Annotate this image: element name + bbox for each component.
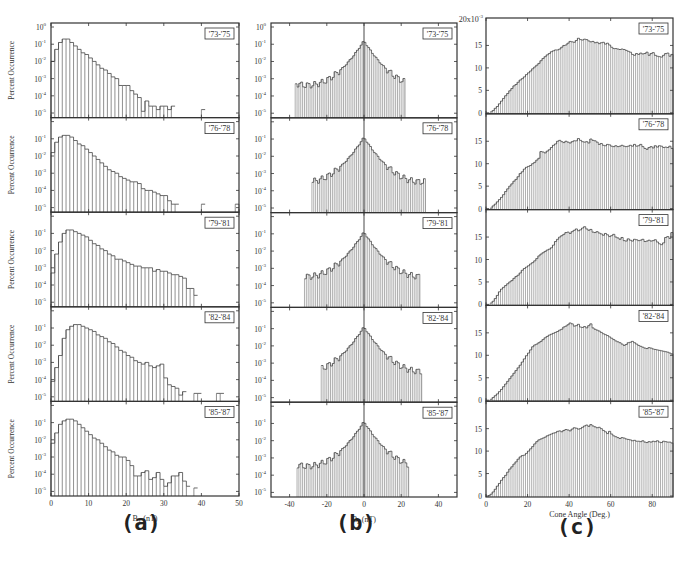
x-tick-label: 40 <box>198 499 206 508</box>
x-tick-label: 20 <box>524 500 532 509</box>
y-tick-label: 10-1 <box>254 418 266 428</box>
subplot-b-1: 10010-110-210-310-410-5'73-'75 <box>254 22 457 118</box>
y-tick-label: 10-1 <box>254 134 266 144</box>
y-tick-label: 10-2 <box>34 435 46 445</box>
y-tick-label: 10-1 <box>254 324 266 334</box>
figure-canvas: 10010-110-210-310-410-5'73-'75Percent Oc… <box>0 0 689 569</box>
histogram-bars <box>297 423 409 497</box>
y-tick-label: 10 <box>475 256 483 265</box>
y-tick-label: 10-4 <box>254 91 266 101</box>
y-tick-label: 10-1 <box>34 134 46 144</box>
subplot-b-5: 10-110-210-310-410-5'85-'87 <box>254 402 457 497</box>
period-label: '85-'87 <box>209 408 231 417</box>
y-tick-label: 15 <box>475 233 483 242</box>
y-tick-label: 100 <box>256 22 267 32</box>
subplot-c-1: 05101520x10-3'73-'75 <box>459 14 673 118</box>
y-tick-label: 0 <box>478 300 482 309</box>
y-tick-label: 10-2 <box>254 246 266 256</box>
y-tick-label: 0 <box>478 492 482 501</box>
histogram-bars <box>490 38 673 114</box>
y-tick-label: 0 <box>478 396 482 405</box>
panel-b: 10010-110-210-310-410-5'73-'7510-110-210… <box>254 22 457 525</box>
y-tick-label: 10-5 <box>254 393 266 403</box>
x-tick-label: 40 <box>435 500 443 509</box>
histogram-bars <box>490 323 673 401</box>
period-label: '82-'84 <box>209 313 231 322</box>
y-tick-label: 10-4 <box>34 469 46 479</box>
y-tick-label: 10-3 <box>34 168 46 178</box>
histogram-bars <box>51 419 198 496</box>
y-tick-label: 10-3 <box>254 453 266 463</box>
period-label: '79-'81 <box>427 219 449 228</box>
x-tick-label: 20 <box>397 500 405 509</box>
y-tick-label: 10-5 <box>34 486 46 496</box>
y-tick-label: 10-5 <box>254 108 266 118</box>
y-axis-label: Percent Occurrence <box>7 419 16 479</box>
y-tick-label: 10-3 <box>34 452 46 462</box>
y-axis-label: Percent Occurrence <box>7 229 16 289</box>
period-label: '82-'84 <box>643 312 665 321</box>
y-axis-label: Percent Occurrence <box>7 324 16 384</box>
histogram-bars <box>304 233 419 307</box>
y-axis-label: Percent Occurrence <box>7 135 16 195</box>
y-tick-label: 10-3 <box>254 169 266 179</box>
x-tick-label: 0 <box>49 499 53 508</box>
y-tick-label: 10-4 <box>254 186 266 196</box>
histogram-bars <box>488 425 673 497</box>
y-tick-label: 15 <box>475 41 483 50</box>
y-tick-label: 10-4 <box>254 375 266 385</box>
panel-label-b: (b) <box>336 510 376 535</box>
y-tick-label: 10-1 <box>34 418 46 428</box>
period-label: '73-'75 <box>427 30 449 39</box>
histogram-bars <box>312 138 425 212</box>
subplot-a-2: 10-110-210-310-410-5'76-'78Percent Occur… <box>7 118 239 213</box>
y-tick-label: 10-3 <box>34 263 46 273</box>
period-label: '82-'84 <box>427 314 449 323</box>
y-tick-label: 10 <box>475 64 483 73</box>
y-tick-label: 10-2 <box>254 151 266 161</box>
y-tick-label: 10-1 <box>34 39 46 49</box>
y-tick-label: 10 <box>475 351 483 360</box>
histogram-bars <box>321 328 421 402</box>
y-tick-label: 10-5 <box>254 203 266 213</box>
figure: 10010-110-210-310-410-5'73-'75Percent Oc… <box>0 0 689 569</box>
period-label: '79-'81 <box>209 219 231 228</box>
y-tick-label: 10-2 <box>34 246 46 256</box>
x-tick-label: -20 <box>322 500 332 509</box>
x-tick-label: 0 <box>362 500 366 509</box>
y-tick-label: 10-1 <box>34 323 46 333</box>
subplot-a-5: 10-110-210-310-410-5'85-'87Percent Occur… <box>7 401 239 496</box>
subplot-b-4: 10-110-210-310-410-5'82-'84 <box>254 307 457 402</box>
y-tick-label: 0 <box>478 109 482 118</box>
y-tick-label: 10-3 <box>254 263 266 273</box>
subplot-b-3: 10-110-210-310-410-5'79-'81 <box>254 213 457 308</box>
y-tick-label: 0 <box>478 205 482 214</box>
y-tick-label: 10-2 <box>254 341 266 351</box>
y-tick-label: 10-4 <box>34 91 46 101</box>
y-tick-label: 10-3 <box>254 358 266 368</box>
x-tick-label: -40 <box>285 500 295 509</box>
y-tick-label: 10-2 <box>34 56 46 66</box>
subplot-c-2: 051015'76-'78 <box>475 114 674 214</box>
period-label: '76-'78 <box>427 124 449 133</box>
y-tick-label: 10-4 <box>34 375 46 385</box>
y-tick-label: 10-3 <box>254 74 266 84</box>
panel-c: 05101520x10-3'73-'75051015'76-'78051015'… <box>459 14 673 519</box>
y-axis-label: Percent Occurrence <box>7 40 16 100</box>
y-tick-label: 10-5 <box>254 298 266 308</box>
y-tick-label: 10-5 <box>34 392 46 402</box>
y-tick-label: 10 <box>475 160 483 169</box>
y-tick-label: 10-5 <box>254 487 266 497</box>
y-tick-label: 10-2 <box>34 340 46 350</box>
panel-label-c: (c) <box>557 514 597 539</box>
x-tick-label: 80 <box>648 500 656 509</box>
y-tick-label: 5 <box>478 86 482 95</box>
subplot-b-2: 10-110-210-310-410-5'76-'78 <box>254 118 457 213</box>
y-tick-label: 15 <box>475 329 483 338</box>
y-tick-label: 10-5 <box>34 297 46 307</box>
y-tick-label: 10-2 <box>254 436 266 446</box>
panel-label-a: (a) <box>121 510 161 535</box>
period-label: '79-'81 <box>643 216 665 225</box>
period-label: '73-'75 <box>209 30 231 39</box>
y-tick-label: 10-3 <box>34 357 46 367</box>
